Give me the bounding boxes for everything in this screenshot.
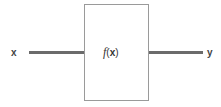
close-paren: ) <box>115 47 118 58</box>
input-wire <box>29 51 84 54</box>
output-wire <box>149 51 203 54</box>
output-label: y <box>207 48 213 58</box>
input-label: x <box>11 48 17 58</box>
function-label: f(x) <box>103 47 119 58</box>
